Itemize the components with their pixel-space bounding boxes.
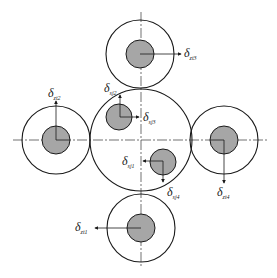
label-sj1: δsj1: [122, 154, 135, 169]
label-zt2: δzt2: [48, 86, 61, 101]
diagram-canvas: δzt3 δzt2 δsj2 δsj3 δsj1 δsj4 δzt4 δzt1: [0, 0, 277, 278]
label-zt4: δzt4: [217, 185, 230, 200]
label-sj3: δsj3: [143, 110, 156, 125]
label-zt1: δzt1: [75, 220, 88, 235]
gear-diagram: δzt3 δzt2 δsj2 δsj3 δsj1 δsj4 δzt4 δzt1: [0, 0, 277, 278]
label-zt3: δzt3: [184, 46, 197, 61]
label-sj2: δsj2: [104, 81, 117, 96]
label-sj4: δsj4: [167, 185, 180, 200]
